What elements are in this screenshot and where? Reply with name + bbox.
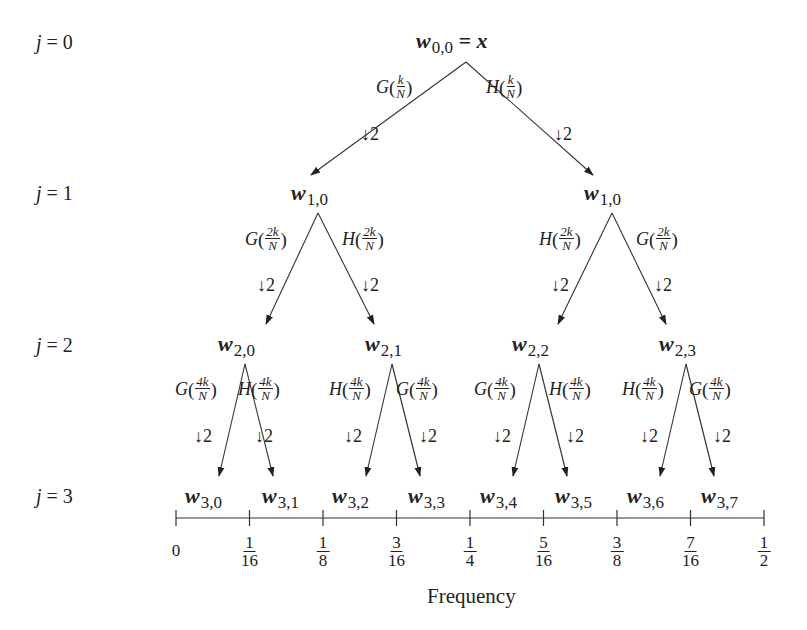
level-label-3: j = 3: [36, 486, 73, 506]
filter-label-g: G(4kN): [396, 376, 438, 402]
filter-label-g: G(4kN): [175, 376, 217, 402]
filter-label-h: H(2kN): [539, 226, 581, 252]
downsample-label: ↓2: [257, 276, 275, 294]
level-label-0: j = 0: [36, 32, 73, 52]
downsample-label: ↓2: [255, 427, 273, 445]
tick-label-1-2: 12: [758, 534, 771, 570]
filter-label-h: H(4kN): [329, 376, 371, 402]
filter-label-h: H(kN): [486, 74, 522, 100]
filter-label-h: H(4kN): [622, 376, 664, 402]
branch-arrow: [513, 364, 539, 476]
node-w-2-2: w2,2: [512, 333, 549, 359]
tick-label-3-8: 38: [611, 534, 624, 570]
tick-label-1-4: 14: [464, 534, 477, 570]
downsample-label: ↓2: [654, 276, 672, 294]
tick-label-5-16: 516: [535, 534, 552, 570]
frequency-axis: [176, 510, 764, 526]
node-w-3-5: w3,5: [555, 485, 592, 511]
node-w-1-0-left: w1,0: [291, 182, 328, 208]
level-label-2: j = 2: [36, 335, 73, 355]
filter-label-g: G(kN): [376, 74, 412, 100]
downsample-label: ↓2: [551, 276, 569, 294]
filter-label-g: G(4kN): [474, 376, 516, 402]
tick-label-3-16: 316: [388, 534, 405, 570]
downsample-label: ↓2: [493, 427, 511, 445]
node-w-3-1: w3,1: [262, 485, 299, 511]
node-w-3-4: w3,4: [480, 485, 517, 511]
downsample-label: ↓2: [419, 427, 437, 445]
tick-label-0: 0: [172, 542, 181, 559]
level-label-1: j = 1: [36, 183, 73, 203]
filter-label-g: G(4kN): [689, 376, 731, 402]
node-w-3-3: w3,3: [408, 485, 445, 511]
filter-label-h: H(4kN): [549, 376, 591, 402]
downsample-label: ↓2: [554, 125, 572, 143]
node-w-1-0-right: w1,0: [584, 182, 621, 208]
downsample-label: ↓2: [344, 427, 362, 445]
downsample-label: ↓2: [194, 427, 212, 445]
tick-label-1-16: 116: [241, 534, 258, 570]
node-w-2-1: w2,1: [365, 333, 402, 359]
filter-label-h: H(4kN): [238, 376, 280, 402]
filter-label-h: H(2kN): [342, 226, 384, 252]
node-w-3-0: w3,0: [185, 485, 222, 511]
downsample-label: ↓2: [640, 427, 658, 445]
node-w-3-7: w3,7: [701, 485, 738, 511]
node-w-3-2: w3,2: [332, 485, 369, 511]
root-node: w0,0 = x: [416, 30, 487, 56]
filter-label-g: G(2kN): [245, 226, 287, 252]
axis-label-frequency: Frequency: [427, 586, 516, 607]
downsample-label: ↓2: [566, 427, 584, 445]
node-w-3-6: w3,6: [627, 485, 664, 511]
downsample-label: ↓2: [361, 125, 379, 143]
filter-label-g: G(2kN): [636, 226, 678, 252]
node-w-2-0: w2,0: [218, 333, 255, 359]
downsample-label: ↓2: [713, 427, 731, 445]
tick-label-1-8: 18: [317, 534, 330, 570]
tick-label-7-16: 716: [682, 534, 699, 570]
downsample-label: ↓2: [361, 276, 379, 294]
node-w-2-3: w2,3: [659, 333, 696, 359]
